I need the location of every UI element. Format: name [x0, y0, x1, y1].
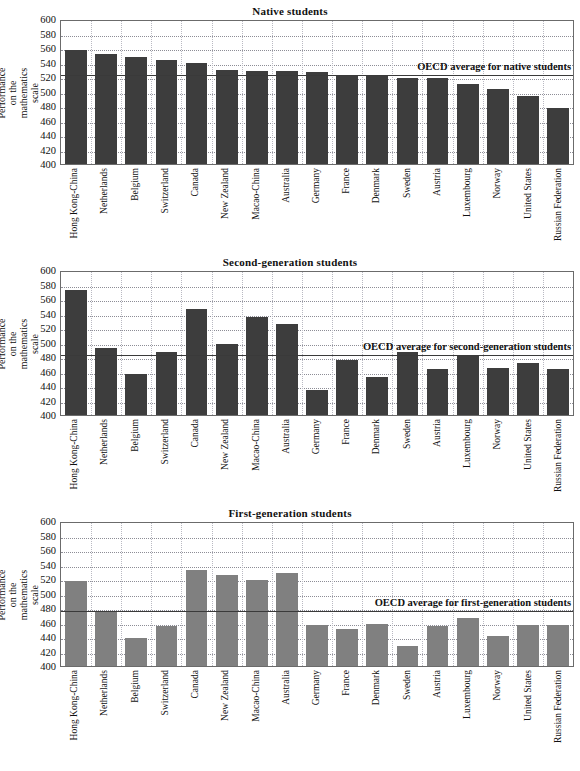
x-tick-label-slot: Luxembourg	[453, 166, 483, 252]
x-tick-label-slot: Canada	[181, 166, 211, 252]
x-tick-label-slot: New Zealand	[211, 417, 241, 503]
x-tick-label: Sweden	[403, 168, 413, 198]
bar	[186, 309, 208, 415]
bar-slot	[151, 523, 181, 666]
bar-slot	[483, 21, 513, 164]
bar-slot	[151, 272, 181, 415]
bar-slot	[392, 21, 422, 164]
bar	[306, 625, 328, 666]
x-tick-label-slot: Macao-China	[241, 417, 271, 503]
x-tick-label-slot: Germany	[302, 417, 332, 503]
bar-series	[61, 523, 573, 666]
x-tick-label-slot: Netherlands	[90, 166, 120, 252]
bar	[366, 624, 388, 666]
bar	[216, 70, 238, 164]
x-tick-label-slot: United States	[514, 166, 544, 252]
x-tick-label-slot: Germany	[302, 668, 332, 754]
x-tick-label-slot: Russian Federation	[544, 417, 574, 503]
bar	[336, 629, 358, 666]
x-tick-label-slot: Netherlands	[90, 417, 120, 503]
bar	[457, 618, 479, 666]
x-tick-label: Luxembourg	[463, 419, 473, 468]
x-tick-label: Macao-China	[252, 419, 262, 471]
bar	[306, 390, 328, 415]
x-tick-label: Switzerland	[161, 419, 171, 464]
y-tick-label: 460	[40, 618, 56, 629]
bar-slot	[483, 523, 513, 666]
bar	[216, 575, 238, 666]
y-tick-label: 440	[40, 131, 56, 142]
x-tick-label-slot: Austria	[423, 417, 453, 503]
bar-slot	[91, 21, 121, 164]
x-axis-labels: Hong Kong-ChinaNetherlandsBelgiumSwitzer…	[60, 668, 574, 754]
x-tick-label: Canada	[191, 168, 201, 197]
bar	[95, 54, 117, 164]
bar	[457, 356, 479, 415]
bar	[366, 377, 388, 415]
x-tick-label: Belgium	[131, 670, 141, 703]
x-tick-label-slot: Macao-China	[241, 668, 271, 754]
x-tick-label-slot: Norway	[483, 668, 513, 754]
x-tick-label: Denmark	[373, 168, 383, 203]
x-tick-label: New Zealand	[222, 419, 232, 470]
x-tick-label-slot: New Zealand	[211, 166, 241, 252]
x-tick-label: Denmark	[373, 419, 383, 454]
bar-slot	[392, 523, 422, 666]
x-tick-label: Netherlands	[101, 670, 111, 716]
x-tick-label: Switzerland	[161, 168, 171, 213]
x-tick-label-slot: Belgium	[120, 417, 150, 503]
bar-slot	[182, 523, 212, 666]
x-tick-label-slot: Australia	[272, 668, 302, 754]
y-tick-label: 400	[40, 662, 56, 673]
chart-panel-2: Second-generation studentsPerformance on…	[0, 251, 580, 502]
y-axis-ticks: 600580560540520500480460440420400	[30, 271, 58, 416]
x-tick-label: Australia	[282, 419, 292, 454]
bar-slot	[513, 21, 543, 164]
bar	[427, 369, 449, 415]
bar-slot	[242, 272, 272, 415]
x-tick-label-slot: Belgium	[120, 166, 150, 252]
y-tick-label: 420	[40, 145, 56, 156]
x-tick-label: Australia	[282, 168, 292, 203]
bar-slot	[182, 272, 212, 415]
bar-slot	[272, 21, 302, 164]
x-tick-label-slot: Luxembourg	[453, 668, 483, 754]
x-tick-label: Austria	[433, 168, 443, 196]
x-tick-label-slot: New Zealand	[211, 668, 241, 754]
bar	[397, 646, 419, 666]
y-tick-label: 580	[40, 531, 56, 542]
bar-slot	[121, 272, 151, 415]
y-tick-label: 540	[40, 309, 56, 320]
x-tick-label: Netherlands	[101, 419, 111, 465]
x-tick-label-slot: United States	[514, 668, 544, 754]
x-tick-label-slot: Belgium	[120, 668, 150, 754]
y-tick-label: 420	[40, 647, 56, 658]
bar-slot	[543, 21, 573, 164]
plot-area-wrapper: Performance on the mathematics scale6005…	[0, 20, 580, 251]
bar-slot	[302, 523, 332, 666]
x-tick-label: Hong Kong-China	[70, 168, 80, 238]
x-tick-label: Australia	[282, 670, 292, 705]
y-tick-label: 460	[40, 367, 56, 378]
x-tick-label-slot: Netherlands	[90, 668, 120, 754]
bar	[276, 324, 298, 415]
bar	[457, 84, 479, 164]
y-tick-label: 500	[40, 338, 56, 349]
bar	[336, 360, 358, 415]
y-tick-label: 520	[40, 575, 56, 586]
x-tick-label-slot: United States	[514, 417, 544, 503]
x-tick-label-slot: Switzerland	[151, 417, 181, 503]
bar	[246, 580, 268, 666]
bar-slot	[453, 523, 483, 666]
x-tick-label-slot: Switzerland	[151, 166, 181, 252]
x-axis-labels: Hong Kong-ChinaNetherlandsBelgiumSwitzer…	[60, 417, 574, 503]
bar-slot	[121, 523, 151, 666]
x-tick-label: Macao-China	[252, 168, 262, 220]
chart-panel-3: First-generation studentsPerformance on …	[0, 502, 580, 753]
y-tick-label: 520	[40, 324, 56, 335]
x-tick-label: Norway	[494, 168, 504, 199]
bar-slot	[302, 21, 332, 164]
x-tick-label: Macao-China	[252, 670, 262, 722]
y-tick-label: 500	[40, 87, 56, 98]
x-tick-label-slot: Russian Federation	[544, 166, 574, 252]
